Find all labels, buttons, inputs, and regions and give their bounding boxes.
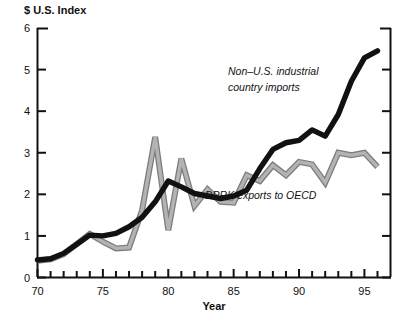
y-tick-label: 0 <box>24 272 30 284</box>
series-label-gray: DPRK exports to OECD <box>205 189 317 201</box>
x-tick-label: 80 <box>162 285 174 297</box>
y-tick-label: 3 <box>24 147 30 159</box>
series-label-black-line1: Non–U.S. industrial <box>228 65 319 77</box>
x-tick-label: 70 <box>31 285 43 297</box>
line-chart: 0123456 707580859095 $ U.S. Index Year N… <box>0 0 411 326</box>
x-tick-label: 90 <box>293 285 305 297</box>
y-tick-label: 1 <box>24 230 30 242</box>
series-label-black-line2: country imports <box>228 81 301 93</box>
x-tick-label: 95 <box>358 285 370 297</box>
y-tick-label: 5 <box>24 64 30 76</box>
x-tick-label: 85 <box>228 285 240 297</box>
y-tick-label: 6 <box>24 22 30 34</box>
y-tick-label: 2 <box>24 188 30 200</box>
x-tick-label: 75 <box>97 285 109 297</box>
y-axis-title: $ U.S. Index <box>24 4 87 16</box>
x-axis-title: Year <box>202 300 226 312</box>
chart-figure: 0123456 707580859095 $ U.S. Index Year N… <box>0 0 411 326</box>
y-tick-label: 4 <box>24 105 30 117</box>
